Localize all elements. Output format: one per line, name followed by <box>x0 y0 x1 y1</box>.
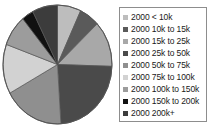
legend-item-4[interactable]: 2000 50k to 75k <box>123 59 204 71</box>
legend-item-8[interactable]: 2000 200k+ <box>123 107 204 119</box>
legend-swatch-icon-0 <box>123 15 128 20</box>
legend-label-0: 2000 < 10k <box>131 11 172 23</box>
legend-swatch-icon-1 <box>123 27 128 32</box>
legend-swatch-icon-7 <box>123 99 128 104</box>
pie-chart-figure: 2000 < 10k 2000 10k to 15k 2000 15k to 2… <box>0 0 209 127</box>
pie-chart-plot-area <box>2 4 113 125</box>
legend-item-0[interactable]: 2000 < 10k <box>123 11 204 23</box>
legend-swatch-icon-8 <box>123 111 128 116</box>
legend-label-7: 2000 150k to 200k <box>131 95 199 107</box>
legend-swatch-icon-2 <box>123 39 128 44</box>
legend-label-5: 2000 75k to 100k <box>131 71 195 83</box>
pie-slice-group <box>3 5 112 124</box>
legend-swatch-icon-4 <box>123 63 128 68</box>
legend-label-4: 2000 50k to 75k <box>131 59 190 71</box>
pie-chart-svg <box>2 4 113 125</box>
legend-swatch-icon-5 <box>123 75 128 80</box>
legend-label-6: 2000 100k to 150k <box>131 83 199 95</box>
legend-swatch-icon-3 <box>123 51 128 56</box>
legend-item-3[interactable]: 2000 25k to 50k <box>123 47 204 59</box>
legend-label-1: 2000 10k to 15k <box>131 23 190 35</box>
legend-swatch-icon-6 <box>123 87 128 92</box>
legend-item-7[interactable]: 2000 150k to 200k <box>123 95 204 107</box>
legend-item-5[interactable]: 2000 75k to 100k <box>123 71 204 83</box>
pie-slice-3[interactable] <box>58 65 112 124</box>
legend-item-1[interactable]: 2000 10k to 15k <box>123 23 204 35</box>
chart-legend: 2000 < 10k 2000 10k to 15k 2000 15k to 2… <box>119 7 207 122</box>
legend-label-3: 2000 25k to 50k <box>131 47 190 59</box>
legend-item-6[interactable]: 2000 100k to 150k <box>123 83 204 95</box>
legend-label-8: 2000 200k+ <box>131 107 175 119</box>
legend-item-2[interactable]: 2000 15k to 25k <box>123 35 204 47</box>
legend-label-2: 2000 15k to 25k <box>131 35 190 47</box>
chart-title <box>0 0 115 1</box>
